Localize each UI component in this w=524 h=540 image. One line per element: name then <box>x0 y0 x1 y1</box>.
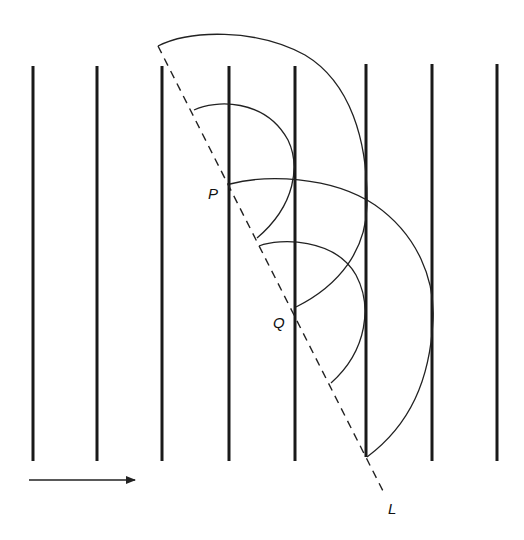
label-Q: Q <box>273 314 285 331</box>
label-L: L <box>388 500 396 517</box>
wavefronts <box>33 64 497 461</box>
wavelet-large-lower <box>230 179 433 457</box>
wavelet-large-upper <box>158 34 367 307</box>
wavelet-small-upper <box>194 104 294 238</box>
label-P: P <box>208 185 218 202</box>
ray-line-L <box>158 46 385 495</box>
huygens-diagram: P Q L <box>0 0 524 540</box>
